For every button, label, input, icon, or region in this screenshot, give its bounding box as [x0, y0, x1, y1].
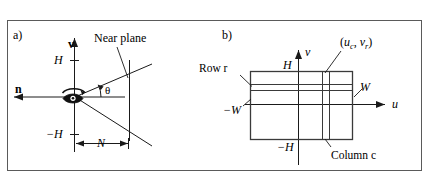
panel-b-row-label-text: Row r — [199, 62, 227, 74]
figure-container: a) v n H −H N θ Near plane b) v u H −H W… — [0, 0, 429, 176]
panel-a-bottom-extent-label: −H — [46, 128, 63, 140]
panel-a-near-plane-leader — [117, 47, 128, 78]
panel-b-left-extent-label: −W — [223, 104, 241, 116]
arrow-right-icon — [376, 101, 385, 108]
panel-a-letter: a) — [13, 29, 22, 41]
panel-a-view-vector-label: n — [15, 83, 22, 95]
panel-a-near-distance-label: N — [97, 137, 105, 149]
panel-b-pixel-center-label: (uc, vr) — [340, 36, 372, 52]
panel-a-N-arrow-left — [76, 141, 84, 147]
panel-b-column-leader — [325, 139, 331, 147]
panel-a-N-arrow-right — [120, 141, 128, 147]
panel-a-diagram — [14, 38, 152, 152]
panel-a-up-vector-label: v — [68, 38, 74, 50]
panel-b-image-rectangle — [251, 72, 353, 140]
panel-b-bottom-extent-label: −H — [277, 141, 294, 153]
panel-b-u-axis-label: u — [392, 98, 398, 110]
pixel-center-close: ) — [368, 35, 372, 49]
panel-b-diagram — [240, 50, 385, 165]
panel-a-frustum-upper-ray — [75, 64, 152, 97]
panel-b-arrow-up-icon — [295, 50, 302, 59]
panel-b-v-axis-label: v — [305, 46, 310, 58]
panel-a-near-plane-label: Near plane — [94, 32, 146, 44]
panel-a-frustum-lower-ray — [75, 97, 152, 146]
panel-b-row-label: Row r — [199, 63, 227, 75]
panel-b-right-extent-label: W — [360, 81, 370, 93]
panel-b-column-label: Column c — [331, 150, 376, 162]
panel-b-column-label-text: Column c — [331, 149, 376, 161]
panel-b-top-extent-label: H — [283, 59, 292, 71]
panel-b-letter: b) — [222, 29, 232, 41]
panel-a-top-extent-label: H — [54, 54, 63, 66]
panel-b-pixel-center-leader — [325, 51, 341, 73]
panel-a-fov-angle-label: θ — [105, 85, 110, 96]
